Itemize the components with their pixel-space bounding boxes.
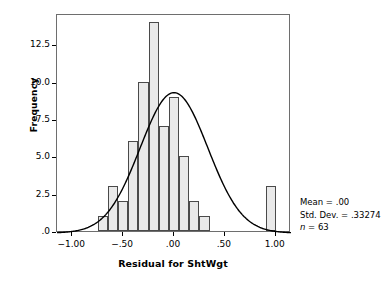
x-axis-tick-mark — [224, 232, 225, 236]
plot-area — [57, 15, 289, 231]
x-axis-tick-mark — [173, 232, 174, 236]
x-axis-title: Residual for ShtWgt — [56, 258, 290, 269]
y-axis-tick-label: .0 — [16, 227, 50, 236]
x-axis-tick-label: −.50 — [111, 239, 133, 249]
stats-annotation: Mean = .00 Std. Dev. = .33274 n = 63 — [300, 196, 381, 234]
y-axis-tick-labels: .02.55.07.510.012.5 — [10, 0, 50, 281]
normal-curve-path — [57, 93, 291, 233]
normal-curve — [57, 15, 291, 233]
x-axis-tick-mark — [275, 232, 276, 236]
stat-std-dev: Std. Dev. = .33274 — [300, 209, 381, 222]
histogram-figure: Frequency .02.55.07.510.012.5 −1.00−.50.… — [0, 0, 386, 281]
y-axis-tick-label: 7.5 — [16, 115, 50, 124]
x-axis-tick-mark — [71, 232, 72, 236]
stat-n: n = 63 — [300, 221, 381, 234]
x-axis-tick-mark — [122, 232, 123, 236]
stat-mean: Mean = .00 — [300, 196, 381, 209]
y-axis-tick-label: 5.0 — [16, 152, 50, 161]
plot-frame — [56, 14, 290, 232]
y-axis-tick-mark — [52, 232, 56, 233]
y-axis-tick-label: 2.5 — [16, 190, 50, 199]
x-axis-tick-label: 1.00 — [265, 239, 285, 249]
x-axis-tick-label: .50 — [217, 239, 231, 249]
stat-n-value: = 63 — [305, 222, 328, 232]
y-axis-tick-label: 12.5 — [16, 40, 50, 49]
y-axis-tick-label: 10.0 — [16, 78, 50, 87]
x-axis-tick-label: −1.00 — [57, 239, 85, 249]
x-axis-tick-label: .00 — [166, 239, 180, 249]
